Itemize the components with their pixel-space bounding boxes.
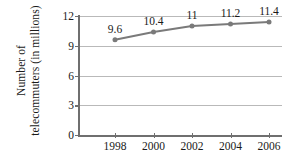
data-point-marker xyxy=(151,29,156,34)
data-point-marker xyxy=(113,37,118,42)
data-point-marker xyxy=(267,19,272,24)
data-point-label: 9.6 xyxy=(95,23,135,35)
line-chart: Number of telecommuters (in millions) 03… xyxy=(0,0,288,160)
data-point-marker xyxy=(228,21,233,26)
data-point-label: 11 xyxy=(172,9,212,21)
data-point-marker xyxy=(190,23,195,28)
data-point-label: 11.2 xyxy=(211,7,251,19)
data-point-label: 11.4 xyxy=(249,5,288,17)
data-point-label: 10.4 xyxy=(134,15,174,27)
